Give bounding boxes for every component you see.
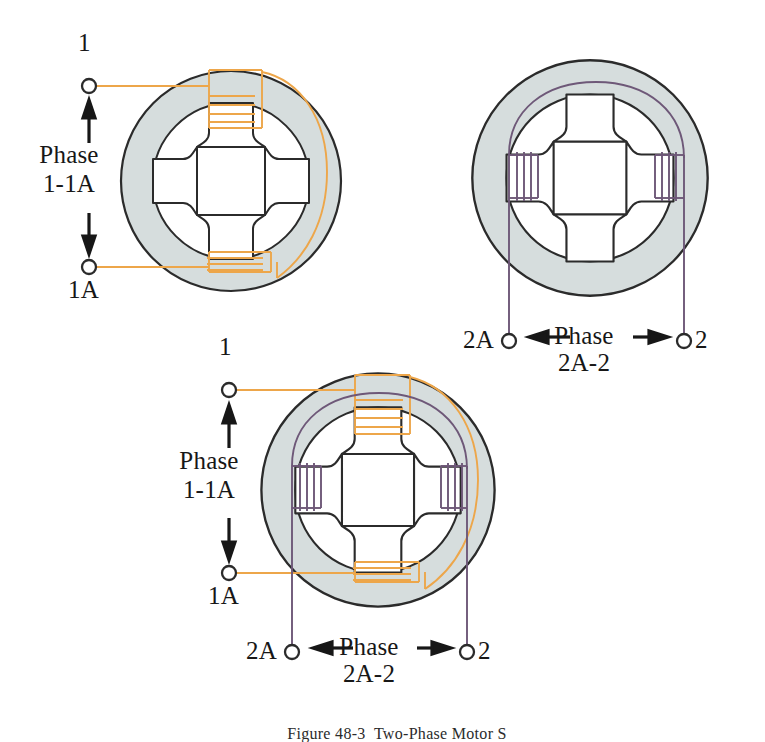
label-terminal-2-bottom: 2 [478, 638, 491, 664]
phase-arrow-down-bottom [223, 518, 235, 560]
label-terminal-2a-top-right: 2A [463, 327, 494, 353]
label-phase-2a-2-line1-bottom: Phase [337, 634, 401, 660]
terminal-dot-1a-bottom[interactable] [222, 566, 236, 580]
terminal-dot-2a-bottom[interactable] [285, 645, 299, 659]
label-terminal-1-top-left: 1 [78, 30, 91, 56]
terminal-dot-1-bottom[interactable] [222, 383, 236, 397]
phase-arrow-up-top-left [83, 100, 95, 143]
label-terminal-2a-bottom: 2A [246, 638, 277, 664]
label-phase-1-1a-line1-top-left: Phase [22, 142, 116, 168]
terminal-dot-1a[interactable] [82, 260, 96, 274]
phase-arrow-right-bottom [417, 642, 451, 654]
diagram-combined-two-phase-stator [222, 373, 495, 659]
phase-arrow-up-bottom [223, 405, 235, 448]
terminal-dot-2-bottom[interactable] [460, 645, 474, 659]
terminal-dot-1[interactable] [82, 79, 96, 93]
terminal-dot-2[interactable] [677, 334, 691, 348]
terminal-dot-2a[interactable] [502, 334, 516, 348]
diagram-phase-1-stator [82, 70, 341, 291]
label-phase-1-1a-line1-bottom: Phase [162, 448, 256, 474]
label-terminal-2-top-right: 2 [695, 327, 708, 353]
diagram-phase-2-stator [472, 60, 707, 348]
label-terminal-1a-bottom: 1A [208, 583, 239, 609]
label-phase-1-1a-line2-top-left: 1-1A [22, 171, 116, 197]
label-phase-1-1a-line2-bottom: 1-1A [162, 477, 256, 503]
phase-arrow-right-top-right [633, 331, 668, 343]
phase-arrow-down-top-left [83, 213, 95, 254]
label-phase-2a-2-line2-top-right: 2A-2 [552, 350, 616, 376]
figure-caption: Figure 48-3 Two-Phase Motor S [232, 726, 562, 742]
label-terminal-1a-top-left: 1A [68, 277, 99, 303]
label-terminal-1-bottom: 1 [219, 334, 232, 360]
label-phase-2a-2-line2-bottom: 2A-2 [337, 661, 401, 687]
label-phase-2a-2-line1-top-right: Phase [552, 323, 616, 349]
stator-core-top-right [472, 60, 707, 295]
